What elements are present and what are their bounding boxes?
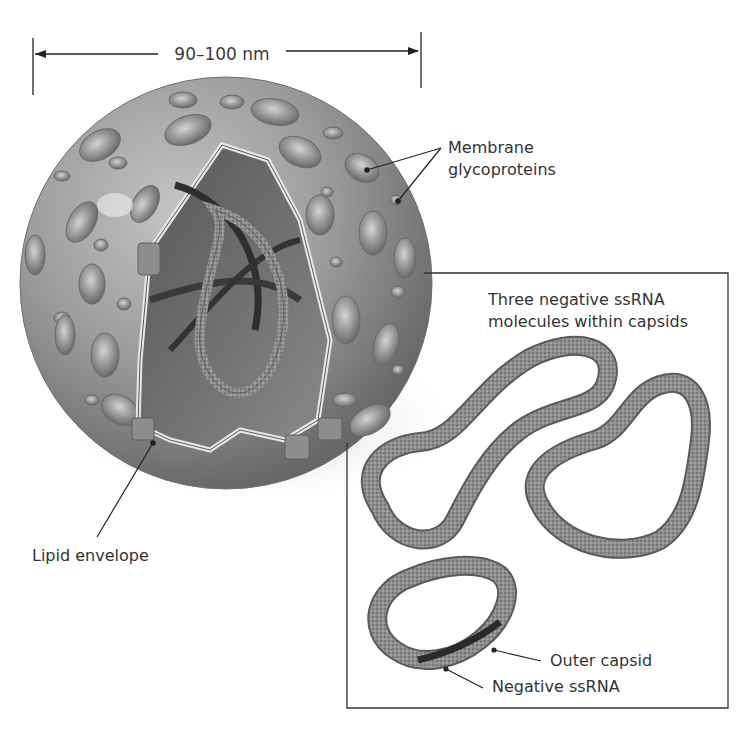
label-membrane-glycoproteins: Membrane glycoproteins bbox=[448, 138, 556, 179]
virus-diagram: 90–100 nm bbox=[0, 0, 746, 729]
leader-negative-ssrna bbox=[444, 667, 483, 688]
label-inset-title: Three negative ssRNA molecules within ca… bbox=[487, 290, 688, 331]
label-lipid-envelope: Lipid envelope bbox=[32, 546, 149, 565]
arrow-right-icon bbox=[408, 47, 419, 55]
leader-outer-capsid bbox=[492, 648, 541, 661]
virus-particle bbox=[20, 77, 432, 489]
label-outer-capsid: Outer capsid bbox=[550, 651, 652, 670]
scale-bar-label: 90–100 nm bbox=[174, 44, 269, 64]
arrow-left-icon bbox=[35, 50, 46, 58]
label-negative-ssrna: Negative ssRNA bbox=[492, 677, 620, 696]
ssrna-segment-3 bbox=[377, 566, 507, 660]
